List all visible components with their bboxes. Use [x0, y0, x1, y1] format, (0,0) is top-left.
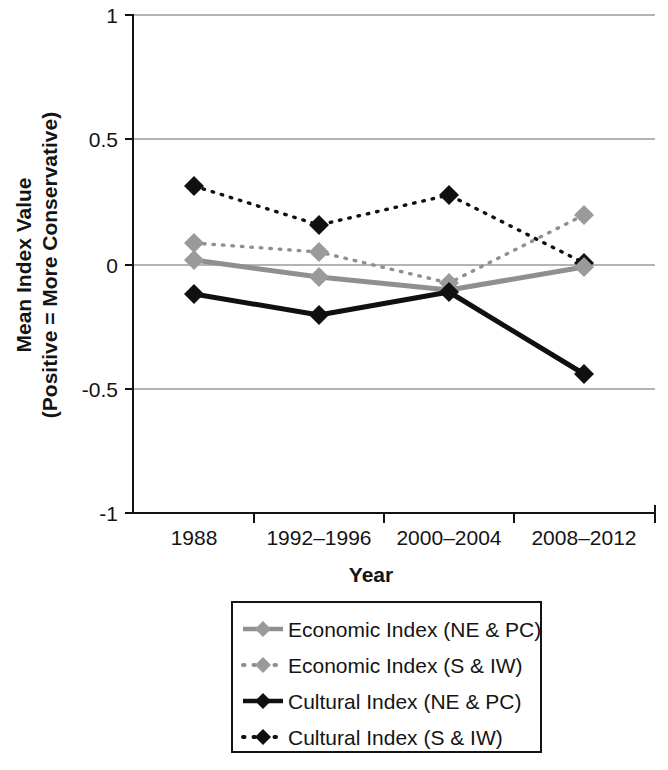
legend-swatch-marker [255, 621, 271, 637]
x-tick-label-1: 1992–1996 [266, 526, 371, 549]
chart-figure: 1 0.5 0 -0.5 -1 1988 1992–1996 2000–2004… [0, 0, 668, 770]
legend-swatch-marker [255, 729, 271, 745]
series-line [194, 292, 584, 374]
legend-item-economic-index-s-iw[interactable]: Economic Index (S & IW) [243, 654, 523, 677]
data-point-marker [309, 215, 329, 235]
legend-label: Economic Index (NE & PC) [288, 618, 541, 641]
legend-label: Cultural Index (S & IW) [288, 726, 503, 749]
legend-label: Cultural Index (NE & PC) [288, 690, 521, 713]
y-tick-label-0: 1 [106, 4, 118, 27]
legend-swatch-marker [255, 657, 271, 673]
series-line [194, 186, 584, 263]
series-economic-index-s-iw [184, 205, 594, 293]
gridlines [133, 15, 655, 389]
data-point-marker [184, 250, 204, 270]
x-tick-label-3: 2008–2012 [531, 526, 636, 549]
data-point-marker [574, 205, 594, 225]
x-tick-label-0: 1988 [171, 526, 218, 549]
legend-label: Economic Index (S & IW) [288, 654, 523, 677]
x-tick-labels: 1988 1992–1996 2000–2004 2008–2012 [171, 526, 637, 549]
series-cultural-index-s-iw [184, 176, 594, 273]
y-axis-title-line1: Mean Index Value [12, 177, 35, 352]
chart-legend: Economic Index (NE & PC) Economic Index … [232, 602, 541, 752]
x-tick-label-2: 2000–2004 [396, 526, 501, 549]
series-cultural-index-ne-pc [184, 282, 594, 384]
legend-item-cultural-index-s-iw[interactable]: Cultural Index (S & IW) [243, 726, 503, 749]
legend-item-cultural-index-ne-pc[interactable]: Cultural Index (NE & PC) [243, 690, 521, 713]
y-tick-label-1: 0.5 [89, 128, 118, 151]
legend-swatch-marker [255, 693, 271, 709]
x-tick-marks [254, 513, 655, 523]
y-tick-label-4: -1 [99, 502, 118, 525]
data-point-marker [309, 242, 329, 262]
legend-item-economic-index-ne-pc[interactable]: Economic Index (NE & PC) [243, 618, 541, 641]
data-point-marker [309, 305, 329, 325]
data-point-marker [439, 185, 459, 205]
line-chart: 1 0.5 0 -0.5 -1 1988 1992–1996 2000–2004… [0, 0, 668, 770]
y-tick-label-2: 0 [106, 254, 118, 277]
y-tick-label-3: -0.5 [82, 378, 118, 401]
data-point-marker [184, 284, 204, 304]
series-economic-index-ne-pc [184, 250, 594, 300]
series-line [194, 215, 584, 283]
data-point-marker [184, 176, 204, 196]
data-point-marker [309, 267, 329, 287]
x-axis-title: Year [349, 563, 393, 586]
y-tick-marks [125, 15, 133, 513]
y-tick-labels: 1 0.5 0 -0.5 -1 [82, 4, 118, 525]
y-axis-title-line2: (Positive = More Conservative) [38, 112, 61, 418]
